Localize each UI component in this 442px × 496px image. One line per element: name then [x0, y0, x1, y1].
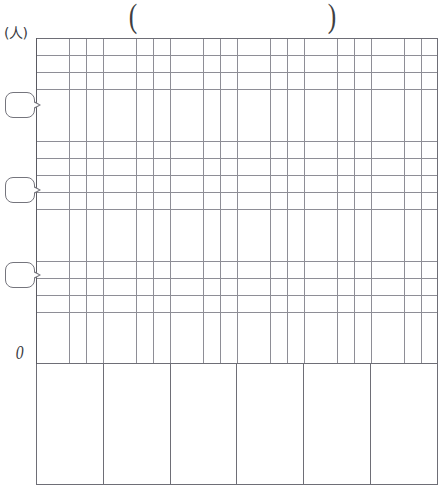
bubble-tail-icon: [34, 271, 41, 279]
y-value-blank-lower[interactable]: [5, 262, 35, 288]
bar-graph-worksheet: ( ) (人) 0: [0, 0, 442, 496]
category-label-cell-2[interactable]: [104, 364, 171, 484]
category-label-cell-3[interactable]: [171, 364, 238, 484]
graph-grid-area[interactable]: [36, 38, 438, 364]
category-label-cell-4[interactable]: [237, 364, 304, 484]
title-open-paren: (: [129, 0, 138, 35]
y-value-blank-top-text: [6, 93, 34, 117]
y-value-blank-middle-text: [6, 178, 34, 202]
title-close-paren: ): [328, 0, 337, 35]
category-label-cell-5[interactable]: [304, 364, 371, 484]
y-value-blank-top[interactable]: [5, 92, 35, 118]
graph-title-area: ( ): [120, 0, 360, 34]
y-value-blank-lower-text: [6, 263, 34, 287]
category-label-cell-6[interactable]: [371, 364, 437, 484]
bubble-tail-icon: [34, 186, 41, 194]
category-label-cell-1[interactable]: [37, 364, 104, 484]
bubble-tail-icon: [34, 101, 41, 109]
graph-title-blank[interactable]: [148, 4, 324, 30]
y-axis-origin-label: 0: [16, 341, 24, 365]
category-label-table: [36, 364, 438, 485]
y-axis-unit-label: (人): [4, 25, 27, 41]
y-value-blank-middle[interactable]: [5, 177, 35, 203]
